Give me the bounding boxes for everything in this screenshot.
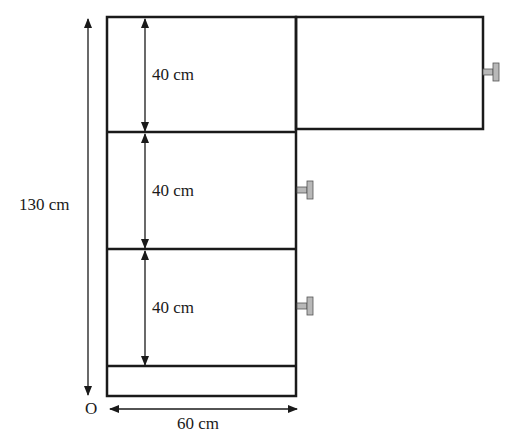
total-height-label: 130 cm xyxy=(19,196,70,213)
door-handle-icon xyxy=(483,63,499,81)
origin-label: O xyxy=(85,400,97,417)
shelf-1-label: 40 cm xyxy=(152,66,194,83)
shelf-3-label: 40 cm xyxy=(152,299,194,316)
width-label: 60 cm xyxy=(177,415,219,432)
door-handle-icon xyxy=(297,181,313,199)
open-door xyxy=(296,17,483,129)
shelf-2-label: 40 cm xyxy=(152,182,194,199)
door-handle-icon xyxy=(297,297,313,315)
main-cabinet xyxy=(107,17,296,396)
cabinet-diagram xyxy=(0,0,518,448)
